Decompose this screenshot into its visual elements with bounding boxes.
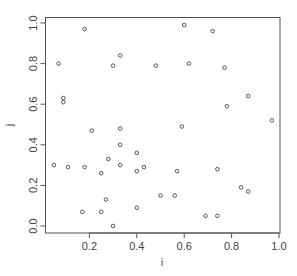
data-point	[135, 151, 139, 155]
data-point	[104, 198, 108, 202]
data-point	[246, 94, 250, 98]
x-tick-label: 1.0	[271, 240, 286, 252]
y-tick-label: 0.2	[27, 178, 39, 193]
data-point	[118, 54, 122, 58]
x-axis-label: i	[161, 256, 163, 268]
data-point	[62, 100, 66, 104]
y-axis: 0.00.20.40.60.81.0	[27, 15, 46, 233]
y-tick-label: 0.4	[27, 137, 39, 152]
data-point	[80, 210, 84, 214]
data-point	[111, 224, 115, 228]
data-point	[239, 186, 243, 190]
data-point	[187, 62, 191, 66]
data-point	[223, 66, 227, 70]
data-point	[118, 143, 122, 147]
x-tick-label: 0.2	[82, 240, 97, 252]
data-points	[52, 23, 274, 228]
y-tick-label: 0.6	[27, 97, 39, 112]
data-point	[135, 169, 139, 173]
data-point	[99, 210, 103, 214]
data-point	[90, 129, 94, 133]
data-point	[52, 163, 56, 167]
data-point	[111, 64, 115, 68]
data-point	[118, 127, 122, 131]
data-point	[135, 206, 139, 210]
data-point	[107, 157, 111, 161]
data-point	[62, 96, 66, 100]
data-point	[83, 165, 87, 169]
data-point	[270, 119, 274, 123]
data-point	[182, 23, 186, 27]
data-point	[225, 104, 229, 108]
data-point	[159, 194, 163, 198]
x-tick-label: 0.6	[177, 240, 192, 252]
y-tick-label: 1.0	[27, 15, 39, 30]
data-point	[99, 171, 103, 175]
x-tick-label: 0.4	[129, 240, 144, 252]
y-axis-label: j	[3, 124, 15, 127]
data-point	[57, 62, 61, 66]
data-point	[142, 165, 146, 169]
data-point	[66, 165, 70, 169]
data-point	[83, 27, 87, 31]
x-axis: 0.20.40.60.81.0	[82, 233, 287, 252]
y-tick-label: 0.0	[27, 218, 39, 233]
y-tick-label: 0.8	[27, 56, 39, 71]
data-point	[180, 125, 184, 129]
data-point	[175, 169, 179, 173]
data-point	[204, 214, 208, 218]
data-point	[216, 214, 220, 218]
data-point	[118, 163, 122, 167]
data-point	[154, 64, 158, 68]
data-point	[173, 194, 177, 198]
data-point	[246, 190, 250, 194]
data-point	[216, 167, 220, 171]
data-point	[211, 29, 215, 33]
x-tick-label: 0.8	[224, 240, 239, 252]
scatter-chart: 0.20.40.60.81.0 0.00.20.40.60.81.0 i j	[0, 0, 297, 276]
plot-frame	[46, 18, 281, 234]
